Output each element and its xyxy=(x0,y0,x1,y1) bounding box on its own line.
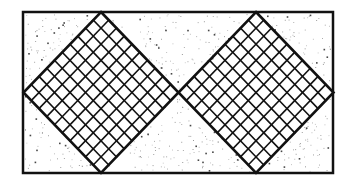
diamond-lattice-figure xyxy=(0,0,355,188)
diamond-group xyxy=(24,12,334,173)
diagram-canvas xyxy=(0,0,355,188)
left-diamond xyxy=(24,12,179,173)
right-diamond xyxy=(179,12,334,173)
